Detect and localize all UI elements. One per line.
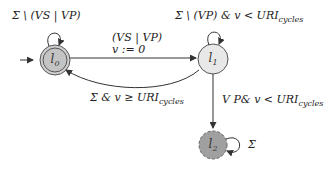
label-l1-l2-guard: V P& v < URIcycles <box>222 94 323 110</box>
label-l0-self-guard: Σ \ (VS | VP) <box>12 10 81 22</box>
state-l1-label: l1 <box>203 51 223 67</box>
state-l0-label: l0 <box>45 52 65 68</box>
label-l0-l1-update: v := 0 <box>112 44 145 56</box>
state-l2-label: l2 <box>203 137 223 153</box>
transition-l1-l0 <box>66 70 199 88</box>
transition-l0-self <box>48 33 61 46</box>
label-l2-self-guard: Σ <box>248 139 256 151</box>
transition-l2-self <box>226 138 240 152</box>
label-l1-l0-guard: Σ & v ≥ URIcycles <box>90 92 184 108</box>
transition-l1-self <box>208 32 221 45</box>
label-l1-self-guard: Σ \ (VP) & v < URIcycles <box>175 10 303 26</box>
